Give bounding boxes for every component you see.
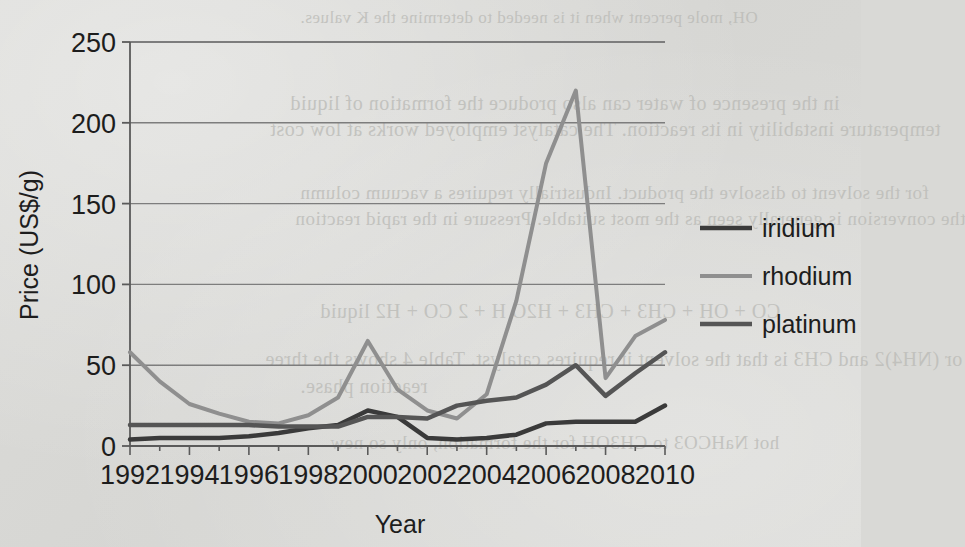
gridlines-group: [130, 42, 665, 365]
y-tick-label-50: 50: [86, 351, 116, 381]
x-tick-label-1994: 1994: [159, 460, 219, 490]
x-tick-label-1998: 1998: [278, 460, 338, 490]
y-tick-label-0: 0: [101, 432, 116, 462]
x-tick-label-1992: 1992: [100, 460, 160, 490]
y-tick-labels-group: 050100150200250: [71, 28, 116, 462]
y-tick-label-200: 200: [71, 109, 116, 139]
axis-lines-group: [130, 42, 665, 446]
x-axis-title: Year: [375, 510, 426, 538]
y-tick-label-100: 100: [71, 270, 116, 300]
legend-label-iridium: iridium: [762, 214, 836, 242]
x-tick-label-2004: 2004: [457, 460, 517, 490]
legend-label-platinum: platinum: [762, 310, 857, 338]
legend-label-rhodium: rhodium: [762, 262, 852, 290]
x-tick-label-2006: 2006: [516, 460, 576, 490]
x-tick-labels-group: 1992199419961998200020022004200620082010: [100, 460, 695, 490]
x-tick-label-2008: 2008: [576, 460, 636, 490]
x-tick-label-2010: 2010: [635, 460, 695, 490]
y-tick-marks-group: [122, 42, 130, 446]
y-tick-label-250: 250: [71, 28, 116, 58]
legend: iridiumrhodiumplatinum: [700, 214, 857, 338]
x-tick-marks-group: [130, 446, 665, 455]
y-tick-label-150: 150: [71, 190, 116, 220]
y-axis-title: Price (US$/g): [15, 170, 43, 320]
data-series-group: [130, 90, 665, 439]
x-tick-label-1996: 1996: [219, 460, 279, 490]
x-tick-label-2000: 2000: [338, 460, 398, 490]
x-tick-label-2002: 2002: [397, 460, 457, 490]
